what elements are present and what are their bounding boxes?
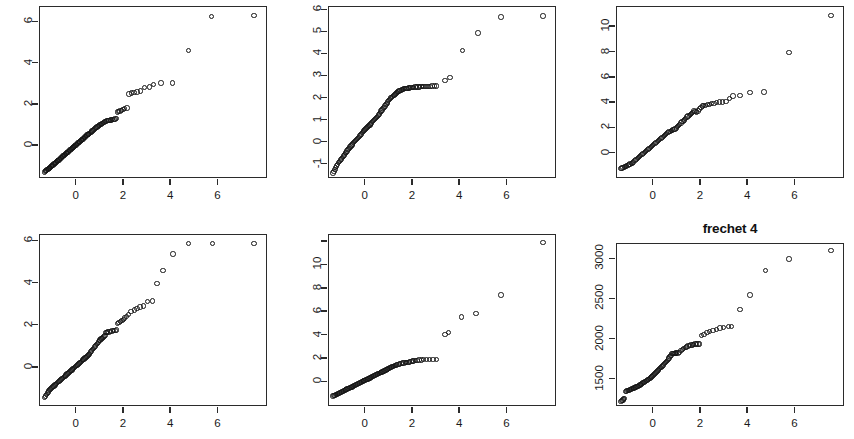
y-tick-label-6-2: 2500 xyxy=(593,277,605,317)
panel-title-6: frechet 4 xyxy=(616,221,844,236)
data-point xyxy=(786,256,791,261)
x-tick-6-3 xyxy=(794,407,796,413)
x-tick-6-0 xyxy=(652,407,654,413)
x-tick-label-6-3: 6 xyxy=(779,417,809,429)
y-tick-6-3 xyxy=(609,258,615,260)
y-tick-label-6-3: 3000 xyxy=(593,237,605,277)
y-tick-label-6-1: 2000 xyxy=(593,318,605,358)
x-tick-6-1 xyxy=(699,407,701,413)
x-tick-label-6-2: 4 xyxy=(732,417,762,429)
plot-panel-6: frechet 415002000250030000246 xyxy=(0,0,854,439)
x-tick-6-2 xyxy=(746,407,748,413)
y-tick-6-1 xyxy=(609,338,615,340)
y-tick-label-6-0: 1500 xyxy=(593,358,605,398)
y-tick-6-0 xyxy=(609,378,615,380)
figure-root: 02460246-1012345602460246810024602460246… xyxy=(0,0,854,439)
x-tick-label-6-1: 2 xyxy=(685,417,715,429)
data-point xyxy=(697,341,702,346)
data-point xyxy=(828,248,833,253)
y-tick-6-2 xyxy=(609,298,615,300)
x-tick-label-6-0: 0 xyxy=(638,417,668,429)
data-point xyxy=(747,292,752,297)
data-point xyxy=(737,307,742,312)
